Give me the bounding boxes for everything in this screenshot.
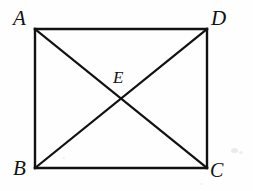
vertex-label-e: E	[113, 69, 123, 86]
scan-artifact-speck	[239, 151, 243, 154]
vertex-label-a: A	[13, 8, 26, 29]
vertex-label-c: C	[210, 160, 223, 180]
geometry-figure: A D B C E	[0, 0, 253, 191]
scan-artifact-speck	[62, 157, 65, 159]
scan-artifact-speck	[231, 148, 238, 153]
rectangle-diagonals	[35, 29, 207, 168]
scan-artifact-speck	[200, 183, 203, 185]
vertex-label-b: B	[13, 158, 26, 179]
vertex-label-d: D	[211, 8, 226, 29]
